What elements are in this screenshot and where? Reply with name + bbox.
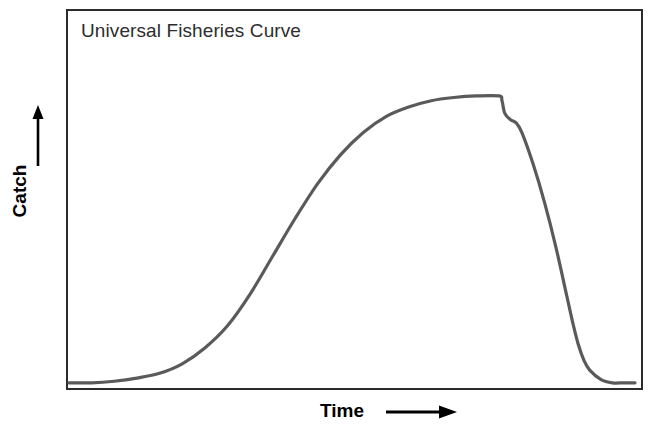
figure-container: Universal Fisheries Curve Catch Time [0,0,658,433]
right-arrow-icon [386,404,458,424]
x-axis-label-text: Time [320,400,364,422]
plot-frame [66,9,643,390]
up-arrow-icon [31,105,45,171]
chart-title: Universal Fisheries Curve [81,20,301,42]
y-axis-label-text: Catch [9,131,31,251]
y-axis-label-group: Catch [0,0,60,433]
